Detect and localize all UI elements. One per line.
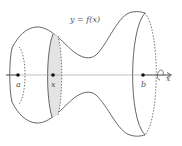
curve-label: y = f(x) bbox=[69, 15, 100, 24]
label-b: b bbox=[141, 80, 146, 89]
point-x bbox=[51, 73, 55, 77]
label-a: a bbox=[16, 80, 21, 89]
left-end-ellipse-back bbox=[19, 47, 25, 104]
solid-outline bbox=[10, 12, 145, 137]
right-end-ellipse-back bbox=[145, 13, 156, 135]
solid-of-revolution-diagram: a x b x y = f(x) bbox=[0, 0, 182, 146]
label-x: x bbox=[51, 80, 56, 89]
point-a bbox=[16, 73, 20, 77]
point-b bbox=[141, 73, 145, 77]
